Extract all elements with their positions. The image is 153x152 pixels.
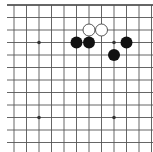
star-point (37, 116, 41, 120)
star-point (112, 116, 116, 120)
star-point (112, 41, 116, 45)
black-stone[interactable] (71, 37, 83, 49)
black-stone[interactable] (108, 49, 120, 61)
board-grid (7, 5, 153, 152)
go-board[interactable] (0, 0, 153, 152)
star-point (37, 41, 41, 45)
white-stone[interactable] (96, 24, 108, 36)
black-stone[interactable] (83, 37, 95, 49)
white-stone[interactable] (83, 24, 95, 36)
black-stone[interactable] (121, 37, 133, 49)
